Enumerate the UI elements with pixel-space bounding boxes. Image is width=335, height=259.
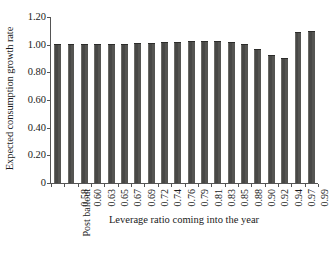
bar — [148, 43, 155, 183]
bar-slot — [78, 17, 91, 183]
bar-slot — [131, 17, 144, 183]
bar-slot — [265, 17, 278, 183]
x-axis-tick-label: 0.92 — [264, 187, 277, 233]
bar — [108, 44, 115, 183]
bar-slot — [144, 17, 157, 183]
y-axis-tick-label: 0.80 — [28, 67, 46, 77]
x-axis-tick-label: Post bailout — [50, 187, 63, 233]
y-axis-tick-labels: 00.200.400.600.801.001.20 — [18, 0, 48, 196]
bar — [295, 32, 302, 183]
bar-slot — [64, 17, 77, 183]
y-axis-tick-label: 0 — [41, 178, 46, 188]
bar — [201, 41, 208, 183]
bar — [54, 44, 61, 183]
bar-slot — [305, 17, 318, 183]
x-axis-tick-label: 0.74 — [157, 187, 170, 233]
y-axis-tick-mark — [47, 72, 50, 73]
bar-slot — [91, 17, 104, 183]
x-axis-tick-label: 0.65 — [103, 187, 116, 233]
y-axis-tick-label: 0.60 — [28, 95, 46, 105]
x-axis-tick-label: 0.72 — [143, 187, 156, 233]
x-axis-tick-label: 0.63 — [90, 187, 103, 233]
bar-slot — [198, 17, 211, 183]
bar — [241, 44, 248, 183]
y-axis-title-text: Expected consumption growth rate — [5, 26, 16, 169]
x-axis-tick-label: 0.67 — [117, 187, 130, 233]
x-axis-tick-label: 0.83 — [210, 187, 223, 233]
x-axis-tick-label: 0.90 — [250, 187, 263, 233]
bar-slot — [278, 17, 291, 183]
x-axis-tick-label: 0.94 — [277, 187, 290, 233]
y-axis-title: Expected consumption growth rate — [0, 0, 20, 196]
y-axis-tick-mark — [47, 183, 50, 184]
bar — [68, 44, 75, 183]
bar — [174, 42, 181, 183]
y-axis-tick-mark — [47, 100, 50, 101]
y-axis-tick-label: 0.40 — [28, 123, 46, 133]
x-axis-tick-label: 0.69 — [130, 187, 143, 233]
y-axis-tick-mark — [47, 45, 50, 46]
bar-slot — [211, 17, 224, 183]
bar-chart-figure: Expected consumption growth rate 00.200.… — [0, 0, 335, 259]
x-axis-tick-label: 0.60 — [77, 187, 90, 233]
bar-slot — [291, 17, 304, 183]
x-axis-tick-label: 0.81 — [197, 187, 210, 233]
y-axis-tick-mark — [47, 155, 50, 156]
bar — [188, 41, 195, 183]
bar — [308, 31, 315, 183]
y-axis-tick-mark — [47, 128, 50, 129]
bar-slot — [225, 17, 238, 183]
bar — [134, 43, 141, 183]
y-axis-tick-label: 0.20 — [28, 150, 46, 160]
bar-slot — [104, 17, 117, 183]
x-axis-tick-mark — [318, 184, 319, 187]
x-axis-tick-label: 0.97 — [290, 187, 303, 233]
bar — [268, 55, 275, 183]
bar-slot — [171, 17, 184, 183]
x-axis-tick-label: 0.76 — [170, 187, 183, 233]
y-axis-tick-label: 1.00 — [28, 40, 46, 50]
bar-series — [51, 17, 318, 183]
x-axis-tick-label: 0.79 — [184, 187, 197, 233]
x-axis-tick-label: 0.58 — [63, 187, 76, 233]
bar — [94, 44, 101, 183]
bar — [214, 41, 221, 183]
y-axis-tick-label: 1.20 — [28, 12, 46, 22]
plot-area — [50, 17, 318, 184]
bar-slot — [238, 17, 251, 183]
bar — [281, 58, 288, 183]
bar — [254, 49, 261, 183]
bar — [161, 42, 168, 183]
bar-slot — [251, 17, 264, 183]
bar-slot — [185, 17, 198, 183]
bar-slot — [158, 17, 171, 183]
bar — [81, 44, 88, 183]
x-axis-tick-label-text: 0.99 — [319, 189, 330, 207]
bar-slot — [51, 17, 64, 183]
y-axis-tick-mark — [47, 17, 50, 18]
x-axis-tick-label: 0.88 — [237, 187, 250, 233]
x-axis-tick-labels: Post bailout0.580.600.630.650.670.690.72… — [50, 187, 318, 233]
bar-slot — [118, 17, 131, 183]
bar — [228, 42, 235, 183]
x-axis-tick-label: 0.85 — [224, 187, 237, 233]
x-axis-title: Leverage ratio coming into the year — [64, 214, 304, 225]
bar — [121, 44, 128, 183]
x-axis-tick-label: 0.99 — [304, 187, 317, 233]
